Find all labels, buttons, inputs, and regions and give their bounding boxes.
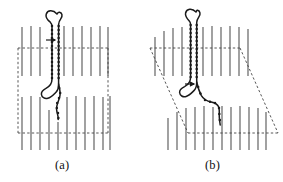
panel-b-caption: (b)	[205, 158, 220, 173]
obstacle-row-upper-b	[155, 26, 248, 76]
panel-a-caption: (a)	[55, 158, 69, 173]
force-arrow-a	[46, 38, 55, 42]
panel-a	[18, 11, 110, 150]
obstacle-row-lower-a	[22, 96, 110, 150]
obstacle-row-lower-b	[168, 106, 266, 150]
panel-b	[150, 9, 278, 150]
chain-beads-b	[189, 24, 221, 122]
chain-tail-b	[197, 82, 221, 125]
figure-root: (a) (b)	[0, 0, 283, 182]
obstacle-row-upper-a	[22, 26, 108, 76]
unit-cell-parallelogram-b	[150, 48, 278, 133]
hairpin-obstacle-diagram	[0, 0, 283, 182]
